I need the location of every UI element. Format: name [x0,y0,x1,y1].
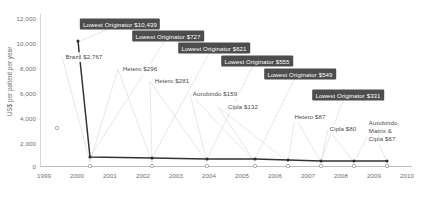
callout-aurobindo-matrix-cipla-67: Aurobindo, Matrix & Cipla $67 [367,118,400,145]
callout-cipla-132: Cipla $132 [226,102,259,112]
callout-originator-10439: Lowest Originator $10,439 [80,19,160,30]
callout-hetero-281: Hetero $281 [153,76,191,86]
callout-cipla-80: Cipla $80 [328,124,358,134]
callout-originator-555: Lowest Originator $555 [221,56,293,67]
leader-lines [62,57,387,162]
callout-brazil-2767: Brazil $2,767 [64,52,104,62]
callout-hetero-296: Hetero $296 [121,64,159,74]
callout-aurobindo-159: Aurobindo $159 [191,89,238,99]
callout-originator-727: Lowest Originator $727 [132,31,204,42]
callout-hetero-87: Hetero $87 [293,112,327,122]
price-decline-line-chart: US$ per patient per year 12,000 10,000 8… [0,0,423,197]
callout-originator-331: Lowest Originator $331 [312,90,384,101]
callout-originator-621: Lowest Originator $621 [178,43,250,54]
callout-originator-549: Lowest Originator $549 [264,69,336,80]
